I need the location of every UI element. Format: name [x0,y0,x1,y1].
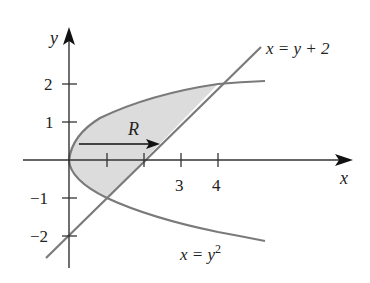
x-axis-label: x [339,168,348,188]
y-tick-label-neg1: −1 [30,189,48,208]
y-tick-label-2: 2 [44,75,53,94]
region-label: R [127,119,139,139]
x-tick-label-3: 3 [175,176,184,195]
diagram-canvas: y x 3 4 2 1 −1 −2 R x = y + 2 x = y2 [0,0,370,283]
line-equation-label: x = y + 2 [265,39,330,58]
parabola-label-main: x = y [179,245,216,264]
x-tick-label-4: 4 [212,176,221,195]
y-tick-label-1: 1 [45,113,54,132]
parabola-equation-label: x = y2 [179,242,221,264]
parabola-label-exponent: 2 [215,242,221,256]
y-tick-label-neg2: −2 [30,227,48,246]
y-axis-label: y [48,28,58,48]
